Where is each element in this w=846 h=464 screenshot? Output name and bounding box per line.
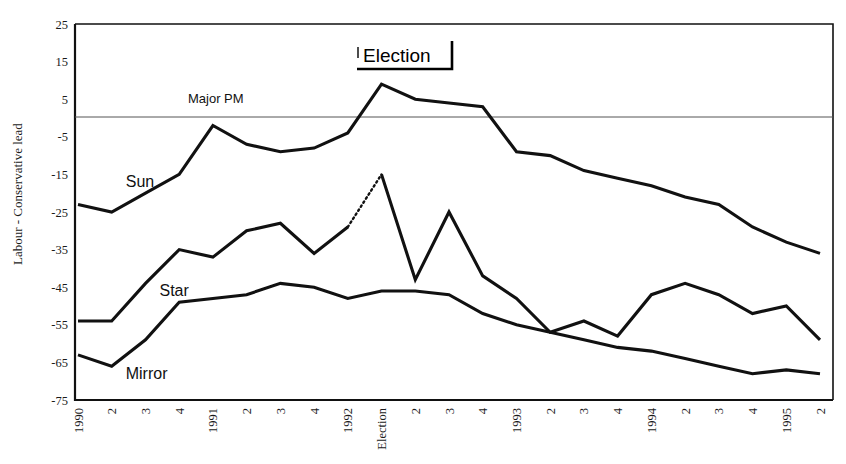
x-tick-label: 2 — [105, 408, 119, 414]
y-tick-label: -65 — [51, 356, 68, 370]
x-tick-label: 3 — [274, 408, 288, 414]
x-tick-label: 4 — [173, 407, 187, 414]
y-axis-title-text: Labour - Conservative lead — [10, 123, 25, 265]
x-tick-label: 1995 — [780, 408, 794, 433]
axis-frame-top-right — [75, 24, 833, 400]
series-line-star-post — [382, 174, 821, 339]
axis-frame — [75, 24, 833, 400]
x-tick-label: 2 — [240, 408, 254, 414]
x-tick-label: 2 — [409, 408, 423, 414]
y-tick-label: 15 — [56, 55, 69, 69]
x-tick-label: 3 — [443, 408, 457, 414]
y-tick-label: -5 — [58, 130, 68, 144]
series-inline-labels: SunStarMirror — [126, 173, 190, 382]
x-tick-label: 3 — [139, 408, 153, 414]
series-line-mirror — [78, 283, 820, 373]
series-line-sun — [78, 84, 820, 253]
y-tick-label: 25 — [56, 18, 69, 32]
series-line-star-gap — [348, 174, 382, 227]
y-tick-label: 5 — [62, 93, 68, 107]
y-tick-label: -25 — [51, 206, 68, 220]
chart-container: Labour - Conservative lead 25155-5-15-25… — [0, 0, 846, 464]
election-label: Election — [363, 45, 431, 66]
y-tick-label: -45 — [51, 281, 68, 295]
series-lines — [78, 84, 820, 374]
x-tick-label: Election — [375, 407, 389, 449]
x-tick-label: 4 — [611, 407, 625, 414]
series-line-star-pre — [78, 223, 348, 321]
series-label-sun: Sun — [126, 173, 154, 190]
y-axis-tick-labels: 25155-5-15-25-35-45-55-65-75 — [51, 18, 68, 408]
x-tick-label: 1994 — [645, 407, 659, 433]
series-label-mirror: Mirror — [126, 365, 168, 382]
x-tick-label: 1991 — [206, 408, 220, 433]
x-tick-label: 3 — [712, 408, 726, 414]
x-tick-label: 2 — [544, 408, 558, 414]
x-tick-label: 4 — [308, 407, 322, 414]
x-tick-label: 2 — [814, 408, 828, 414]
x-tick-label: 1992 — [341, 408, 355, 433]
x-axis-tick-labels: 199023419912341992Election23419932341994… — [72, 407, 828, 449]
election-annotation: Election — [357, 41, 452, 69]
x-tick-label: 2 — [679, 408, 693, 414]
major-pm-label: Major PM — [188, 91, 244, 106]
y-axis-title: Labour - Conservative lead — [10, 123, 25, 265]
y-tick-label: -75 — [51, 394, 68, 408]
x-tick-label: 4 — [476, 407, 490, 414]
x-tick-label: 4 — [746, 407, 760, 414]
y-tick-label: -35 — [51, 243, 68, 257]
x-tick-label: 1993 — [510, 408, 524, 433]
y-tick-label: -15 — [51, 168, 68, 182]
y-tick-label: -55 — [51, 318, 68, 332]
x-tick-label: 1990 — [72, 408, 86, 433]
series-label-star: Star — [159, 282, 189, 299]
x-tick-label: 3 — [577, 408, 591, 414]
line-chart: Labour - Conservative lead 25155-5-15-25… — [0, 0, 846, 464]
